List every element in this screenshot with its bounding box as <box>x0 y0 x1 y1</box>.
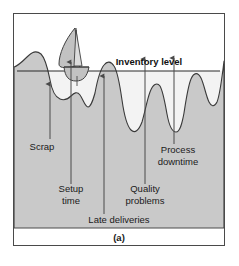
label-late-deliveries: Late deliveries <box>88 214 150 225</box>
label-quality-problems-line2: problems <box>125 195 164 206</box>
inventory-level-label: Inventory level <box>116 56 183 67</box>
figure-caption: (a) <box>113 232 125 243</box>
label-quality-problems-line1: Quality <box>130 183 160 194</box>
label-setup-time-line1: Setup <box>59 183 84 194</box>
figure-frame: Inventory level Scrap Setup time Quality… <box>13 13 225 246</box>
figure-container: Inventory level Scrap Setup time Quality… <box>0 0 239 266</box>
label-setup-time-line2: time <box>62 195 80 206</box>
inventory-rocks-diagram: Inventory level Scrap Setup time Quality… <box>14 14 224 245</box>
label-process-downtime-line2: downtime <box>158 156 199 167</box>
label-scrap: Scrap <box>30 141 55 152</box>
label-process-downtime-line1: Process <box>161 144 196 155</box>
